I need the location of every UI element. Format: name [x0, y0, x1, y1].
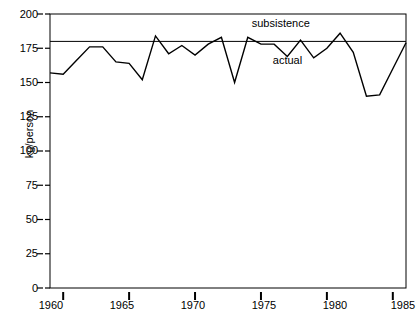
y-tick-label-25: 25: [8, 248, 38, 259]
y-tick-label-175: 175: [8, 43, 38, 54]
actual-series-line: [50, 33, 406, 96]
y-tick-label-150: 150: [8, 77, 38, 88]
y-tick-label-200: 200: [8, 9, 38, 20]
plot-frame: [50, 14, 406, 288]
y-tick-label-125: 125: [8, 111, 38, 122]
x-tick-label-1980: 1980: [315, 300, 355, 311]
y-tick-label-75: 75: [8, 180, 38, 191]
y-tick-label-50: 50: [8, 214, 38, 225]
y-tick-label-100: 100: [8, 145, 38, 156]
x-tick-label-1965: 1965: [102, 300, 142, 311]
y-tick-label-0: 0: [8, 283, 38, 294]
actual-annotation: actual: [273, 55, 302, 66]
x-tick-label-1970: 1970: [173, 300, 213, 311]
x-tick-label-1985: 1985: [383, 300, 420, 311]
y-axis-tick-labels: 200 175 150 125 100 75 50 25 0: [4, 0, 38, 321]
x-tick-label-1975: 1975: [244, 300, 284, 311]
x-tick-label-1960: 1960: [31, 300, 71, 311]
axis-ticks: [37, 14, 393, 300]
subsistence-annotation: subsistence: [252, 18, 310, 29]
